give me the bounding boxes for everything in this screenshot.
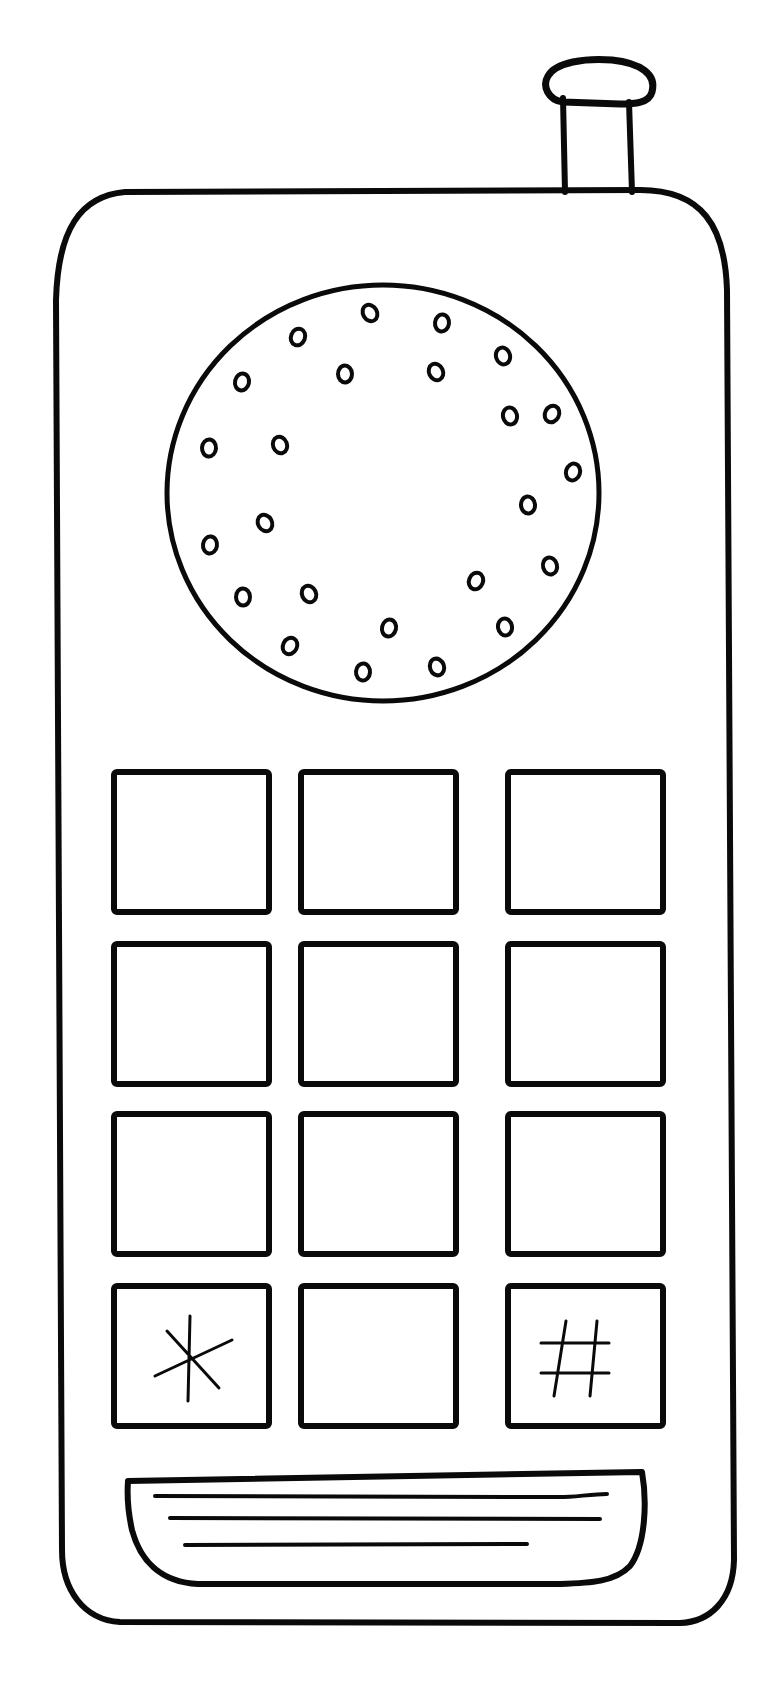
speaker-hole xyxy=(233,372,250,392)
phone-body xyxy=(56,190,734,1623)
speaker-hole xyxy=(202,439,217,457)
keypad-key xyxy=(301,1286,456,1426)
key-outline xyxy=(114,1114,269,1254)
speaker-hole xyxy=(280,635,300,657)
keypad-key xyxy=(508,1114,663,1254)
keypad-key xyxy=(114,772,269,912)
speaker-hole xyxy=(236,588,250,605)
key-outline xyxy=(114,944,269,1084)
speaker-hole xyxy=(271,435,290,456)
keypad-key xyxy=(114,944,269,1084)
key-outline xyxy=(508,772,663,912)
grille-line-2 xyxy=(170,1518,600,1519)
grille-line-1 xyxy=(155,1494,607,1497)
speaker-hole xyxy=(288,327,307,348)
speaker-hole xyxy=(202,536,218,555)
speaker-grille xyxy=(167,285,599,701)
speaker-hole xyxy=(466,570,485,591)
speaker-hole xyxy=(542,403,562,424)
speaker-hole xyxy=(541,556,559,576)
key-outline xyxy=(301,1114,456,1254)
bottom-grille xyxy=(128,1472,645,1584)
keypad-key xyxy=(508,944,663,1084)
speaker-hole xyxy=(434,314,450,333)
speaker-hole xyxy=(338,365,353,382)
speaker-hole xyxy=(428,657,447,678)
speaker-hole xyxy=(497,617,514,636)
speaker-hole xyxy=(520,496,536,514)
keypad-key xyxy=(508,1286,663,1426)
speaker-hole xyxy=(299,583,319,604)
key-outline xyxy=(301,1286,456,1426)
grille-line-3 xyxy=(185,1544,527,1545)
phone-drawing xyxy=(0,0,781,1685)
hash-icon xyxy=(541,1321,609,1396)
asterisk-icon xyxy=(155,1316,232,1401)
key-outline xyxy=(508,1286,663,1426)
key-outline xyxy=(301,772,456,912)
key-outline xyxy=(114,772,269,912)
grille-outline xyxy=(128,1472,645,1584)
antenna-stem xyxy=(563,98,632,192)
speaker-hole xyxy=(494,346,512,366)
key-outline xyxy=(508,944,663,1084)
keypad-key xyxy=(301,944,456,1084)
speaker-hole xyxy=(564,462,582,482)
antenna xyxy=(546,60,653,192)
speaker-hole xyxy=(255,512,275,534)
speaker-hole xyxy=(426,361,446,382)
speaker-hole xyxy=(380,618,397,638)
keypad-key xyxy=(301,1114,456,1254)
keypad-key xyxy=(301,772,456,912)
speaker-outline xyxy=(167,285,599,701)
key-outline xyxy=(301,944,456,1084)
speaker-hole xyxy=(355,663,370,681)
keypad xyxy=(114,772,663,1426)
keypad-key xyxy=(114,1114,269,1254)
keypad-key xyxy=(508,772,663,912)
speaker-hole xyxy=(360,302,381,324)
keypad-key xyxy=(114,1286,269,1426)
key-outline xyxy=(508,1114,663,1254)
speaker-hole xyxy=(502,406,519,425)
